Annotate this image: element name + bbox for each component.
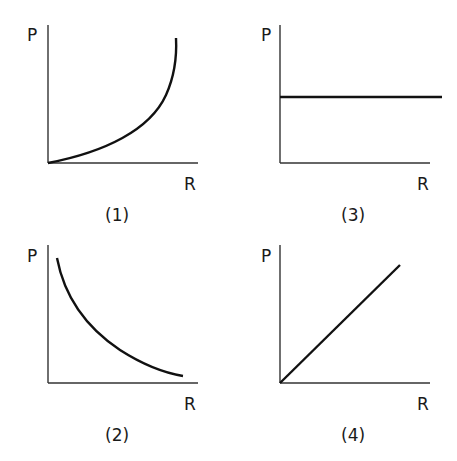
decreasing-curve [57, 258, 183, 376]
y-axis-label: P [261, 25, 271, 45]
graph-3: P R (3) [261, 25, 442, 225]
graph-caption: (1) [105, 205, 129, 225]
x-axis-label: R [417, 174, 429, 194]
increasing-convex-curve [48, 38, 176, 163]
graph-4: P R (4) [261, 245, 430, 445]
graph-caption: (3) [341, 205, 365, 225]
x-axis-label: R [184, 174, 196, 194]
x-axis-label: R [184, 394, 196, 414]
graph-caption: (4) [341, 425, 365, 445]
graph-1: P R (1) [27, 25, 198, 225]
graph-caption: (2) [105, 425, 129, 445]
y-axis-label: P [27, 25, 37, 45]
x-axis-label: R [417, 394, 429, 414]
y-axis-label: P [261, 246, 271, 266]
graph-2: P R (2) [27, 245, 198, 445]
linear-line [280, 265, 400, 383]
graphs-figure: P R (1) P R (3) P R (2) P R (4) [0, 0, 457, 461]
y-axis-label: P [27, 246, 37, 266]
